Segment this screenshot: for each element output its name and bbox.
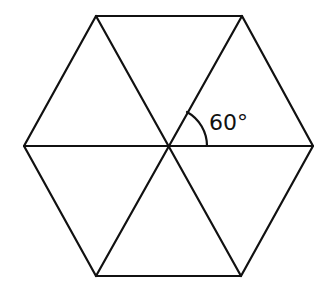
angle-arc xyxy=(187,112,207,146)
hexagon-diagram: 60° xyxy=(0,0,332,296)
angle-label: 60° xyxy=(209,110,248,135)
